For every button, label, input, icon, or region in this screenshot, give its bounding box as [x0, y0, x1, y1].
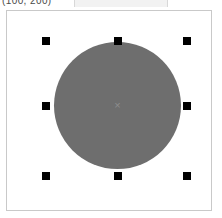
status-bar: (100, 200) [0, 0, 222, 7]
handle-bottom-right[interactable] [183, 172, 191, 180]
handle-top-left[interactable] [42, 37, 50, 45]
handle-middle-left[interactable] [42, 102, 50, 110]
ellipse-shape[interactable] [54, 42, 181, 169]
readout-input-field[interactable] [74, 0, 168, 7]
handle-top-center[interactable] [114, 37, 122, 45]
drawing-canvas[interactable]: × [6, 10, 212, 211]
handle-middle-right[interactable] [183, 102, 191, 110]
coordinate-readout: (100, 200) [2, 0, 52, 6]
handle-bottom-center[interactable] [114, 172, 122, 180]
handle-bottom-left[interactable] [42, 172, 50, 180]
handle-top-right[interactable] [183, 37, 191, 45]
